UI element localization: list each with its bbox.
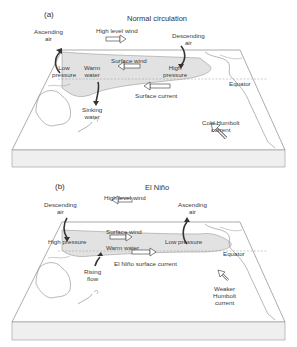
label-rising-flow: Risingflow [84, 268, 101, 282]
label-weaker-humbolt-current: WeakerHumboltcurrent [213, 285, 236, 306]
label-cold-humbolt-current: Cold Humboltcurrent [202, 119, 240, 133]
label-el-nino-surface-current: El Niño surface current [114, 260, 177, 267]
label-descending-air: Descendingair [172, 32, 205, 46]
label-high-level-wind: High level wind [104, 194, 146, 201]
panel-el-nino: (b) El Niño Descendingair High level win… [0, 172, 297, 347]
label-surface-wind: Surface wind [106, 228, 142, 235]
label-ascending-air: Ascendingair [34, 28, 63, 42]
label-sinking-water: Sinkingwater [82, 106, 102, 120]
label-surface-current: Surface current [135, 92, 177, 99]
label-equator: Equator [229, 80, 251, 87]
label-descending-air: Descendingair [44, 201, 77, 215]
label-equator: Equator [223, 250, 245, 257]
panel-tag: (b) [55, 182, 65, 191]
panel-normal-circulation: (a) Normal circulation Ascendingair High… [0, 0, 297, 172]
label-low-pressure: Low pressure [165, 238, 202, 245]
label-surface-wind: Surface wind [111, 57, 147, 64]
panel-tag: (a) [44, 10, 54, 19]
panel-title: Normal circulation [127, 14, 187, 23]
label-high-pressure: Highpressure [163, 64, 187, 78]
label-high-level-wind: High level wind [96, 27, 138, 34]
ocean-block-diagram [0, 0, 297, 172]
label-low-pressure: Lowpressure [52, 64, 76, 78]
label-ascending-air: Ascendingair [178, 201, 207, 215]
label-high-pressure: High pressure [48, 238, 87, 245]
panel-title: El Niño [145, 183, 169, 192]
label-warm-water: Warm water [106, 244, 139, 251]
label-warm-water: Warmwater [84, 64, 100, 78]
